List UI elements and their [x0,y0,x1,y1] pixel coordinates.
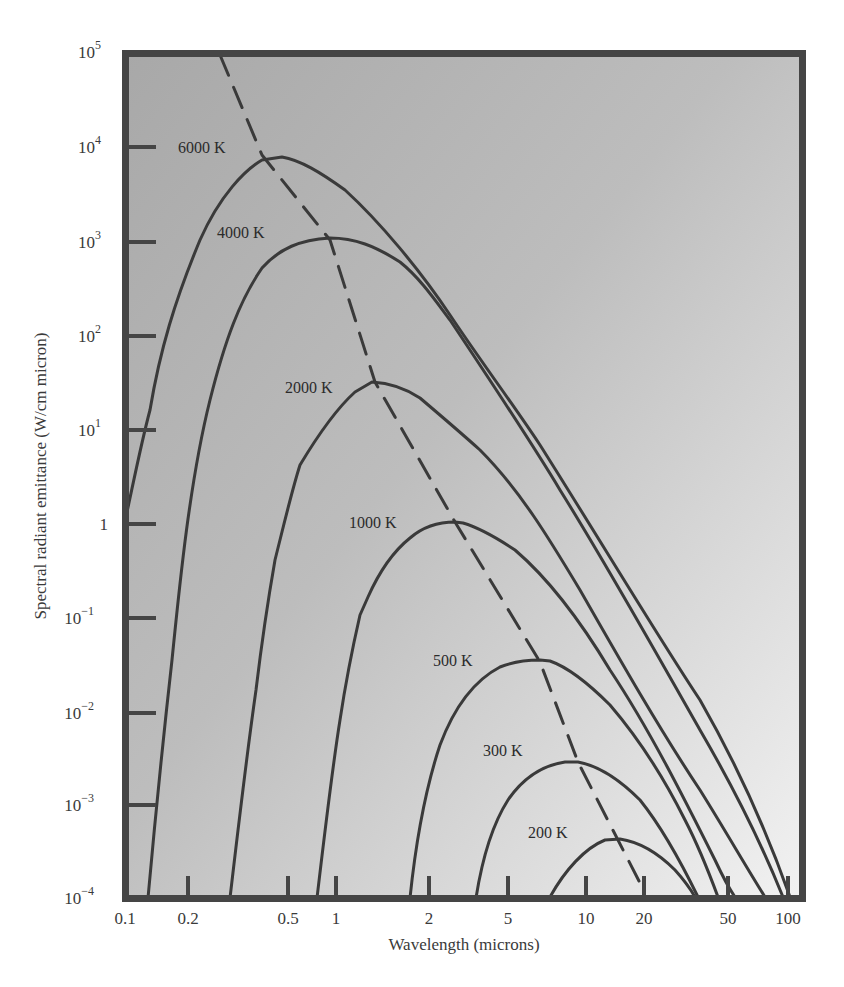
y-tick-label: 101 [78,416,101,440]
curve-label: 4000 K [217,224,265,241]
x-axis-title: Wavelength (microns) [388,935,539,954]
y-axis-title: Spectral radiant emittance (W/cm micron) [31,333,50,620]
y-tick-label: 10−2 [64,699,94,723]
y-tick-label: 102 [78,322,101,346]
x-tick-label: 0.5 [277,909,298,928]
y-tick-label: 10−1 [64,604,94,628]
curve-label: 200 K [528,824,568,841]
y-tick-label: 104 [78,133,101,157]
y-tick-label: 103 [78,228,101,252]
blackbody-chart: 105104103102101110−110−210−310−4 0.10.20… [0,0,844,987]
curve-label: 500 K [433,652,473,669]
curve-label: 2000 K [285,379,333,396]
x-tick-label: 100 [775,909,801,928]
plot-area [124,52,804,900]
x-tick-label: 1 [332,909,341,928]
x-tick-label: 5 [504,909,513,928]
y-axis-tick-labels: 105104103102101110−110−210−310−4 [64,38,108,908]
x-tick-label: 2 [425,909,434,928]
x-tick-label: 0.2 [177,909,198,928]
y-tick-label: 10−3 [64,791,94,815]
curve-label: 6000 K [178,139,226,156]
curve-label: 1000 K [349,514,397,531]
x-tick-label: 50 [720,909,737,928]
x-axis-tick-labels: 0.10.20.5125102050100 [114,909,800,928]
y-tick-label: 10−4 [64,884,94,908]
curve-label: 300 K [483,742,523,759]
x-tick-label: 0.1 [114,909,135,928]
x-tick-label: 20 [636,909,653,928]
y-tick-label: 1 [100,515,109,534]
x-tick-label: 10 [578,909,595,928]
y-tick-label: 105 [78,38,101,62]
